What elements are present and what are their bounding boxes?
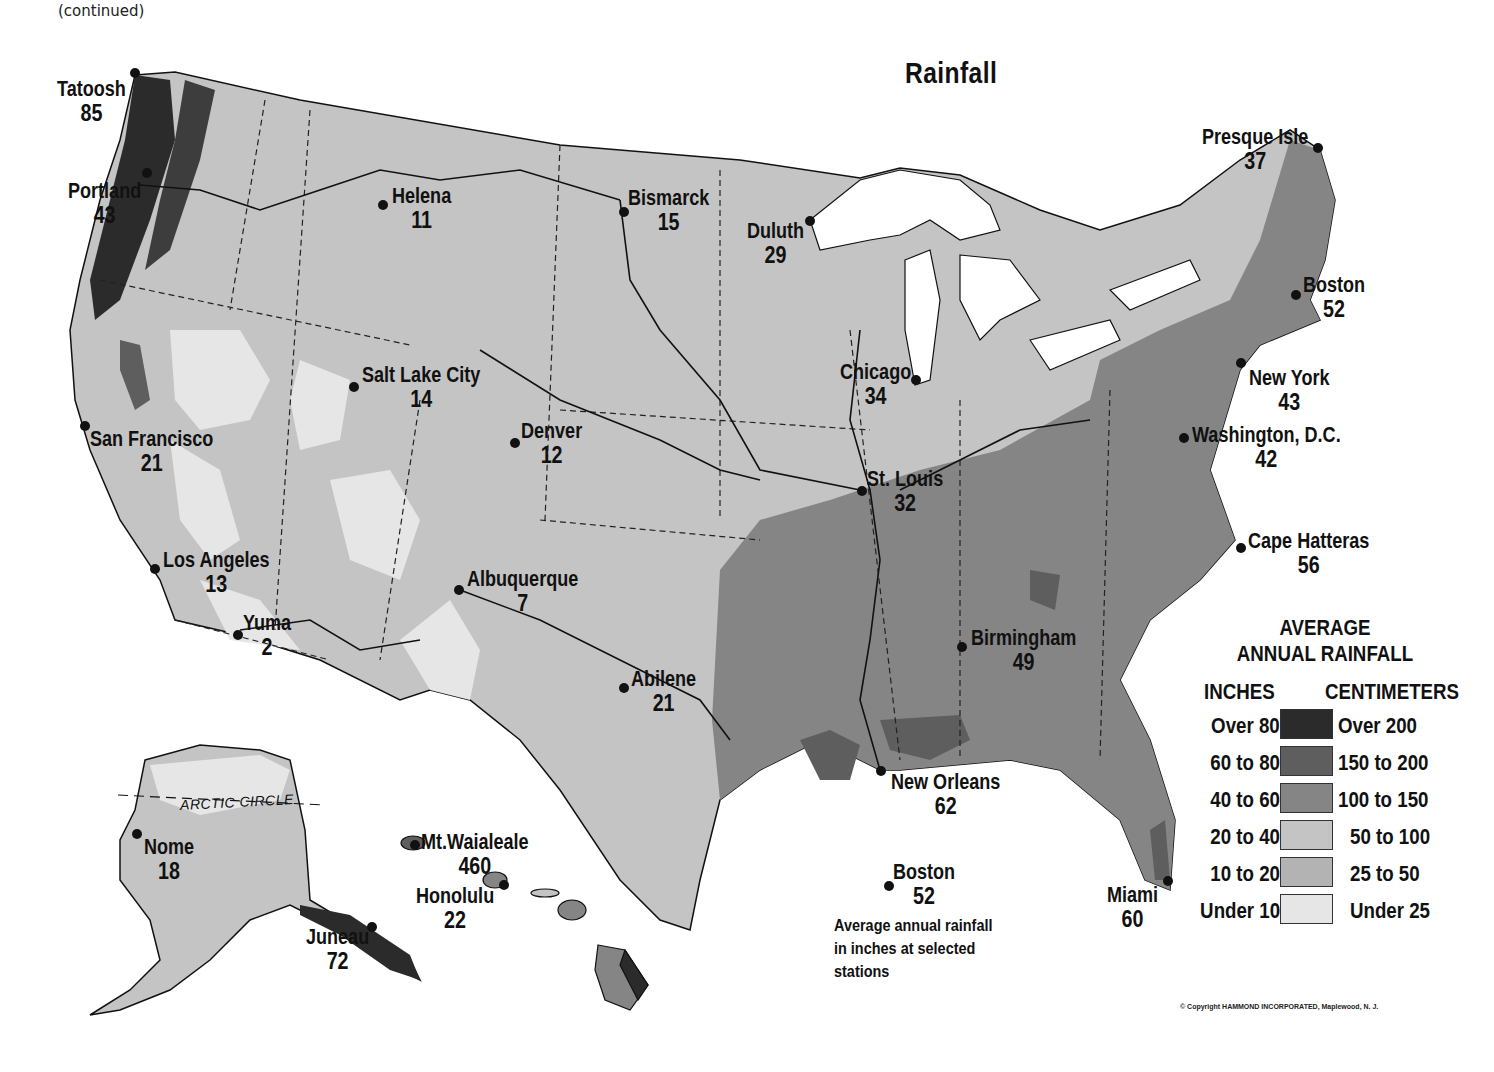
station-dot-new-york (1236, 358, 1246, 368)
station-label-juneau: Juneau72 (306, 926, 369, 973)
station-label-duluth: Duluth29 (747, 220, 804, 267)
legend-title-line1: AVERAGE (1202, 615, 1449, 641)
station-dot-nome (132, 829, 142, 839)
station-label-helena: Helena11 (392, 185, 451, 232)
station-label-san-francisco: San Francisco21 (90, 428, 213, 475)
station-dot-birmingham (957, 642, 967, 652)
station-label-los-angeles: Los Angeles13 (163, 549, 270, 596)
station-dot-washington (1179, 433, 1189, 443)
station-label-bismarck: Bismarck15 (628, 187, 709, 234)
station-dot-los-angeles (150, 564, 160, 574)
key-example-label: Boston52 (893, 861, 955, 908)
legend-swatch (1280, 894, 1333, 924)
station-label-tatoosh: Tatoosh85 (57, 78, 126, 125)
station-label-cape-hatteras: Cape Hatteras56 (1248, 530, 1369, 577)
station-dot-helena (378, 200, 388, 210)
station-label-portland: Portland43 (68, 180, 141, 227)
key-example-note: Average annual rainfall in inches at sel… (834, 914, 992, 983)
station-label-albuquerque: Albuquerque7 (467, 568, 578, 615)
legend-headers: INCHES CENTIMETERS (1180, 679, 1470, 709)
legend-swatch (1280, 820, 1333, 850)
station-label-denver: Denver12 (521, 420, 582, 467)
rainfall-legend: AVERAGE ANNUAL RAINFALL INCHES CENTIMETE… (1180, 615, 1470, 931)
station-label-yuma: Yuma2 (243, 612, 291, 659)
station-dot-honolulu (499, 880, 509, 890)
station-label-chicago: Chicago34 (840, 361, 911, 408)
station-dot-miami (1163, 876, 1173, 886)
station-label-nome: Nome18 (144, 836, 194, 883)
legend-row-under-10: Under 10Under 25 (1180, 894, 1470, 931)
station-dot-albuquerque (454, 585, 464, 595)
station-dot-new-orleans (876, 766, 886, 776)
legend-row-20-40: 20 to 4050 to 100 (1180, 820, 1470, 857)
station-label-presque-isle: Presque Isle37 (1202, 126, 1308, 173)
legend-swatch (1280, 709, 1333, 739)
station-label-new-orleans: New Orleans62 (891, 771, 1000, 818)
station-dot-boston (1291, 290, 1301, 300)
station-label-honolulu: Honolulu22 (416, 885, 494, 932)
station-dot-denver (510, 438, 520, 448)
legend-row-over-80: Over 80Over 200 (1180, 709, 1470, 746)
legend-title-line2: ANNUAL RAINFALL (1202, 641, 1449, 667)
station-label-st-louis: St. Louis32 (867, 468, 943, 515)
station-dot-tatoosh (130, 68, 140, 78)
station-label-new-york: New York43 (1249, 367, 1330, 414)
station-label-salt-lake-city: Salt Lake City14 (362, 364, 480, 411)
legend-swatch (1280, 783, 1333, 813)
station-dot-chicago (911, 375, 921, 385)
legend-row-40-60: 40 to 60100 to 150 (1180, 783, 1470, 820)
station-label-washington: Washington, D.C.42 (1192, 424, 1341, 471)
station-dot-mt-waialeale (410, 840, 420, 850)
station-dot-abilene (619, 683, 629, 693)
copyright-notice: © Copyright HAMMOND INCORPORATED, Maplew… (1180, 1003, 1378, 1010)
station-dot-presque-isle (1313, 143, 1323, 153)
legend-swatch (1280, 746, 1333, 776)
station-dot-duluth (805, 216, 815, 226)
station-label-boston: Boston52 (1303, 274, 1365, 321)
legend-row-10-20: 10 to 2025 to 50 (1180, 857, 1470, 894)
station-label-birmingham: Birmingham49 (971, 627, 1076, 674)
station-dot-yuma (233, 630, 243, 640)
station-dot-salt-lake-city (349, 382, 359, 392)
station-label-abilene: Abilene21 (631, 668, 696, 715)
legend-swatch (1280, 857, 1333, 887)
legend-row-60-80: 60 to 80150 to 200 (1180, 746, 1470, 783)
station-dot-portland (142, 168, 152, 178)
station-dot-st-louis (857, 486, 867, 496)
station-dot-cape-hatteras (1236, 543, 1246, 553)
station-label-mt-waialeale: Mt.Waialeale460 (421, 831, 529, 878)
legend-inches-header: INCHES (1204, 679, 1275, 705)
station-dot-san-francisco (80, 421, 90, 431)
legend-centimeters-header: CENTIMETERS (1325, 679, 1459, 705)
station-label-miami: Miami60 (1107, 884, 1158, 931)
